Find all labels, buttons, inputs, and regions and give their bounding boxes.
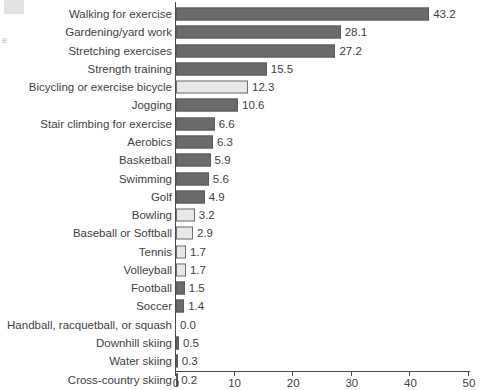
x-axis-tick — [234, 371, 235, 376]
bar — [176, 336, 179, 349]
x-axis-tick — [409, 371, 410, 376]
horizontal-bar-chart: Walking for exercise43.2Gardening/yard w… — [0, 0, 483, 390]
bar-value-label: 6.3 — [217, 136, 233, 148]
bar-row: Volleyball1.7 — [0, 261, 483, 279]
category-label: Football — [131, 282, 172, 294]
bar — [176, 99, 238, 112]
category-label: Handball, racquetball, or squash — [7, 319, 172, 331]
bar-value-label: 2.9 — [197, 227, 213, 239]
x-axis-tick-label: 10 — [228, 377, 241, 389]
category-label: Stair climbing for exercise — [40, 118, 172, 130]
bar — [176, 81, 248, 94]
bar-row: Bowling3.2 — [0, 206, 483, 224]
plot-area: Walking for exercise43.2Gardening/yard w… — [0, 0, 483, 372]
category-label: Volleyball — [123, 264, 172, 276]
category-label: Cross-country skiing — [68, 374, 172, 386]
bar-value-label: 12.3 — [252, 81, 274, 93]
x-axis-tick — [468, 371, 469, 376]
category-label: Downhill skiing — [96, 337, 172, 349]
bar-row: Basketball5.9 — [0, 151, 483, 169]
category-label: Bicycling or exercise bicycle — [29, 81, 172, 93]
bar-value-label: 10.6 — [242, 99, 264, 111]
bar-row: Stair climbing for exercise6.6 — [0, 115, 483, 133]
bar-row: Downhill skiing0.5 — [0, 334, 483, 352]
category-label: Aerobics — [127, 136, 172, 148]
bar-value-label: 6.6 — [219, 118, 235, 130]
bar — [176, 263, 186, 276]
bar — [176, 136, 213, 149]
bar-row: Gardening/yard work28.1 — [0, 23, 483, 41]
category-label: Baseball or Softball — [73, 227, 172, 239]
bar-value-label: 1.7 — [190, 264, 206, 276]
bar-row: Stretching exercises27.2 — [0, 42, 483, 60]
y-axis-line — [175, 2, 176, 372]
bar-row: Walking for exercise43.2 — [0, 5, 483, 23]
category-label: Stretching exercises — [68, 45, 172, 57]
bar — [176, 44, 335, 57]
bar-row: Football1.5 — [0, 279, 483, 297]
bar — [176, 355, 178, 368]
bar-row: Tennis1.7 — [0, 243, 483, 261]
bar-row: Swimming5.6 — [0, 169, 483, 187]
bar-value-label: 0.5 — [183, 337, 199, 349]
x-axis-line — [175, 371, 470, 372]
x-axis-tick — [175, 371, 176, 376]
bar-value-label: 5.6 — [213, 173, 229, 185]
bar-value-label: 4.9 — [209, 191, 225, 203]
x-axis-tick-label: 50 — [463, 377, 476, 389]
bar — [176, 300, 184, 313]
bar — [176, 172, 209, 185]
bar-row: Baseball or Softball2.9 — [0, 224, 483, 242]
category-label: Walking for exercise — [69, 8, 172, 20]
bar-row: Water skiing0.3 — [0, 352, 483, 370]
bar-row: Aerobics6.3 — [0, 133, 483, 151]
bar-row: Golf4.9 — [0, 188, 483, 206]
bar-row: Handball, racquetball, or squash0.0 — [0, 316, 483, 334]
bar-value-label: 5.9 — [215, 154, 231, 166]
bar-row: Bicycling or exercise bicycle12.3 — [0, 78, 483, 96]
x-axis-tick — [292, 371, 293, 376]
category-label: Bowling — [132, 209, 172, 221]
x-axis-tick-label: 20 — [287, 377, 300, 389]
bar — [176, 282, 185, 295]
bar — [176, 8, 429, 21]
category-label: Strength training — [88, 63, 172, 75]
bar-value-label: 1.4 — [188, 300, 204, 312]
bar-row: Jogging10.6 — [0, 96, 483, 114]
bar — [176, 62, 267, 75]
bar-value-label: 0.2 — [181, 374, 197, 386]
bar — [176, 190, 205, 203]
category-label: Tennis — [139, 246, 172, 258]
category-label: Swimming — [119, 173, 172, 185]
bar-value-label: 0.0 — [180, 319, 196, 331]
bar — [176, 209, 195, 222]
bar-row: Soccer1.4 — [0, 297, 483, 315]
bar — [176, 245, 186, 258]
bar — [176, 154, 211, 167]
bar-value-label: 43.2 — [433, 8, 455, 20]
category-label: Soccer — [136, 300, 172, 312]
bar-value-label: 15.5 — [271, 63, 293, 75]
bar-row: Strength training15.5 — [0, 60, 483, 78]
x-axis-tick — [351, 371, 352, 376]
bar-value-label: 28.1 — [345, 26, 367, 38]
x-axis-tick-label: 40 — [404, 377, 417, 389]
bar-value-label: 27.2 — [339, 45, 361, 57]
category-label: Basketball — [119, 154, 172, 166]
bar — [176, 26, 341, 39]
bar-value-label: 1.7 — [190, 246, 206, 258]
category-label: Jogging — [132, 99, 172, 111]
x-axis-tick-label: 30 — [345, 377, 358, 389]
x-axis-tick-label: 0 — [173, 377, 179, 389]
bar — [176, 117, 215, 130]
bar-value-label: 1.5 — [189, 282, 205, 294]
bar-value-label: 3.2 — [199, 209, 215, 221]
bar — [176, 227, 193, 240]
category-label: Water skiing — [109, 355, 172, 367]
category-label: Gardening/yard work — [65, 26, 172, 38]
category-label: Golf — [151, 191, 172, 203]
bar-value-label: 0.3 — [182, 355, 198, 367]
